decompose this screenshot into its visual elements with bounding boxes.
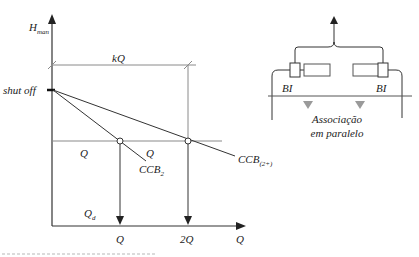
q-left-label: Q [80, 147, 88, 159]
arrow-down-2q [184, 144, 192, 225]
parallel-schematic [268, 16, 412, 120]
ccb-parallel-sub: (2+) [259, 160, 273, 168]
left-valve-label: BI [282, 82, 294, 94]
x-axis-label: Q [236, 233, 244, 245]
right-valve-label: BI [376, 82, 388, 94]
qd-sub: d [92, 214, 96, 222]
ccb2-sub: 2 [160, 170, 164, 178]
qd-label: Q [84, 207, 92, 219]
arrow-down-q [116, 144, 124, 225]
ccb2-label: CCB [139, 163, 161, 175]
operating-point-q [117, 138, 123, 144]
kq-label: kQ [112, 52, 125, 64]
operating-point-2q [185, 138, 191, 144]
caption-line-1: Associação [311, 113, 363, 125]
svg-text:Hman: Hman [28, 21, 50, 36]
svg-text:CCB(2+): CCB(2+) [238, 153, 273, 168]
ccb2-curve [53, 90, 146, 161]
ccb-parallel-label: CCB [238, 153, 260, 165]
svg-text:Qd: Qd [84, 207, 96, 222]
y-axis-sub: man [37, 28, 50, 36]
pump-curve-diagram: Hman kQ shut off Q Q CCB2 CCB(2+) Qd Q 2… [0, 0, 419, 257]
q-mid-label: Q [146, 147, 154, 159]
svg-text:CCB2: CCB2 [139, 163, 164, 178]
x-tick-2q: 2Q [180, 233, 194, 245]
y-axis [48, 14, 56, 226]
caption-line-2: em paralelo [311, 127, 364, 139]
x-axis [52, 222, 246, 230]
shut-off-label: shut off [3, 84, 38, 96]
x-tick-q: Q [116, 233, 124, 245]
kq-dimension-line [48, 61, 196, 141]
